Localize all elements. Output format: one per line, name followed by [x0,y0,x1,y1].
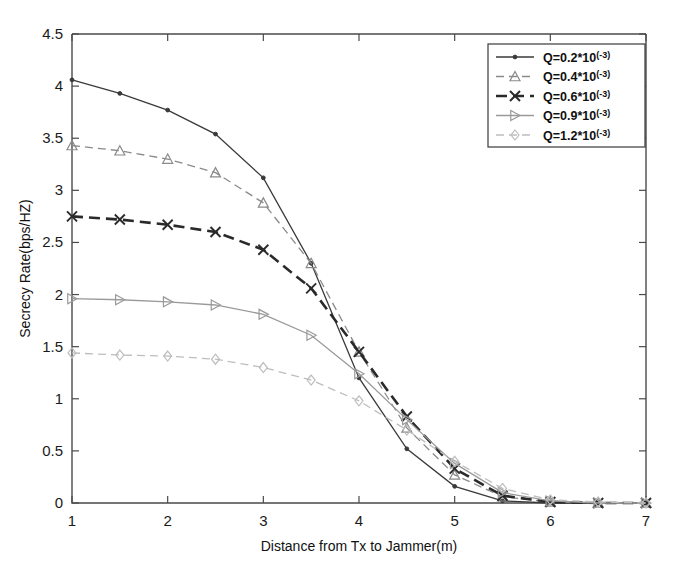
x-tick-label: 1 [68,512,76,529]
marker-dot [70,78,74,82]
line-chart: 00.511.522.533.544.51234567Distance from… [0,0,679,574]
series-group [68,348,650,508]
series-line [72,216,646,503]
marker-dot [513,55,517,59]
x-tick-label: 5 [450,512,458,529]
x-tick-label: 2 [163,512,171,529]
marker-x-cross [306,283,316,293]
y-tick-label: 3.5 [42,129,63,146]
marker-dot [261,176,265,180]
y-tick-label: 3 [55,181,63,198]
y-tick-label: 2 [55,286,63,303]
series-line [72,353,646,503]
figure-canvas: 00.511.522.533.544.51234567Distance from… [0,0,679,574]
y-tick-label: 0.5 [42,442,63,459]
marker-x-cross [354,347,364,357]
y-tick-label: 4.5 [42,25,63,42]
y-tick-label: 0 [55,494,63,511]
marker-dot [214,132,218,136]
series-line [72,146,646,503]
y-tick-label: 1.5 [42,338,63,355]
marker-dot [166,108,170,112]
marker-dot [118,92,122,96]
x-tick-label: 7 [642,512,650,529]
legend: Q=0.2*10(-3)Q=0.4*10(-3)Q=0.6*10(-3)Q=0.… [488,44,645,147]
series-group [67,141,651,508]
x-tick-label: 4 [355,512,363,529]
x-tick-label: 6 [546,512,554,529]
series-group [68,294,651,508]
marker-dot [453,484,457,488]
y-tick-label: 1 [55,390,63,407]
y-tick-label: 2.5 [42,233,63,250]
series-group [67,211,651,508]
y-tick-label: 4 [55,77,63,94]
x-tick-label: 3 [259,512,267,529]
marker-dot [405,447,409,451]
x-axis-title: Distance from Tx to Jammer(m) [261,538,458,554]
y-axis-title: Secrecy Rate(bps/HZ) [17,199,33,337]
